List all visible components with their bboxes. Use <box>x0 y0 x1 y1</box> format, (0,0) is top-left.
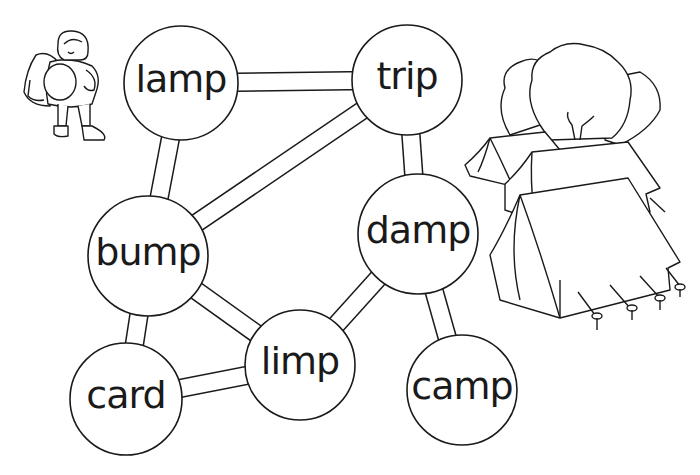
word-node-trip[interactable]: trip <box>352 25 462 135</box>
word-node-camp[interactable]: camp <box>407 335 517 445</box>
word-label: lamp <box>136 57 227 101</box>
word-node-bump[interactable]: bump <box>88 196 208 316</box>
word-label: limp <box>261 339 339 383</box>
word-label: trip <box>376 54 437 98</box>
camp-illustration <box>465 44 685 330</box>
nodes-layer: lamptripbumpdamplimpcardcamp <box>70 25 517 455</box>
word-node-card[interactable]: card <box>70 343 182 455</box>
hiker-illustration <box>24 31 105 140</box>
word-node-lamp[interactable]: lamp <box>124 26 238 140</box>
word-label: camp <box>411 364 512 408</box>
word-label: bump <box>95 230 200 274</box>
word-label: damp <box>366 208 471 252</box>
word-label: card <box>86 373 165 417</box>
maze-canvas: lamptripbumpdamplimpcardcamp <box>0 0 700 475</box>
word-node-limp[interactable]: limp <box>245 310 355 420</box>
word-node-damp[interactable]: damp <box>358 174 478 294</box>
